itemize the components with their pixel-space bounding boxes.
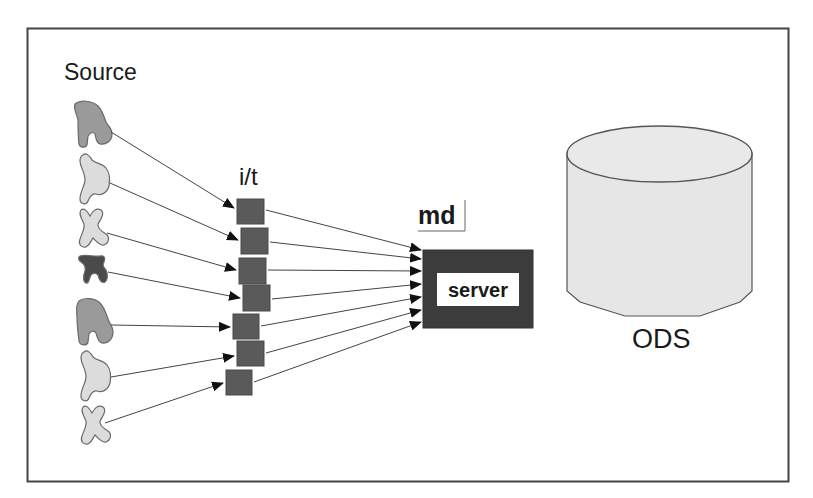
it-box-2	[241, 228, 268, 254]
source-shape-7	[81, 406, 110, 444]
source-shape-3	[79, 209, 108, 247]
it-box-6	[237, 341, 264, 366]
source-shape-2	[80, 154, 110, 204]
source-shape-5	[77, 299, 114, 345]
it-box-3	[239, 258, 266, 284]
ods-cylinder	[567, 126, 752, 316]
source-shape-4	[79, 255, 108, 283]
arrow-source-4-to-it-4	[108, 272, 240, 298]
source-shape-6	[81, 351, 111, 401]
arrow-source-6-to-it-6	[111, 356, 234, 377]
it-box-4	[243, 285, 270, 311]
arrow-it-7-to-server	[254, 322, 421, 382]
it-box-5	[233, 314, 259, 339]
diagram-canvas: Source i/t md server ODS	[0, 0, 813, 498]
ods-label: ODS	[632, 326, 691, 353]
source-label: Source	[64, 61, 137, 84]
source-shapes	[74, 101, 113, 444]
arrow-source-5-to-it-5	[111, 325, 230, 327]
it-label: i/t	[239, 165, 258, 189]
it-box-1	[237, 199, 264, 224]
arrow-source-2-to-it-2	[110, 183, 238, 240]
it-box-7	[226, 370, 252, 395]
source-to-it-arrows	[105, 132, 240, 423]
arrow-source-3-to-it-3	[107, 233, 236, 270]
arrow-source-1-to-it-1	[111, 132, 234, 208]
it-to-server-arrows	[254, 210, 421, 382]
arrow-it-6-to-server	[266, 310, 421, 353]
ods-cylinder-top	[567, 126, 752, 182]
server-label: server	[437, 273, 519, 306]
arrow-it-4-to-server	[272, 284, 421, 299]
md-label: md	[418, 203, 456, 228]
arrow-it-5-to-server	[261, 297, 421, 326]
arrow-it-3-to-server	[268, 270, 421, 271]
arrow-source-7-to-it-7	[105, 383, 223, 423]
source-shape-1	[74, 101, 112, 147]
